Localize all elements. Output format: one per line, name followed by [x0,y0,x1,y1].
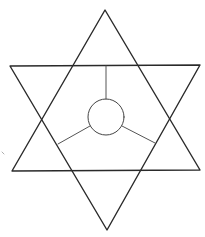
background [0,0,205,237]
hexagram-diagram [0,0,205,237]
